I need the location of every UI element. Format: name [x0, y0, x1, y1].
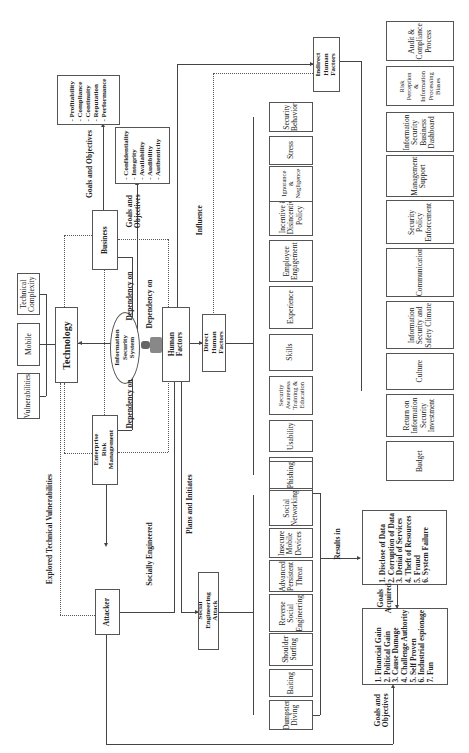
dotted-erm-hf-v	[168, 383, 169, 452]
dotted-tech-business-h	[64, 235, 92, 236]
label-goals-objectives-3: Goals and Objectives	[374, 690, 391, 730]
label-plans: Plans and Initiates	[186, 464, 194, 544]
edge-attacker-goals-h	[106, 744, 393, 745]
edge-socially-v	[174, 382, 175, 612]
label-explored: Explored Technical Vulnerabilities	[46, 464, 54, 594]
tech-factor-label: Technical Complexity	[20, 276, 37, 311]
results-tick	[313, 715, 320, 716]
results-box: 1. Disclose of Data 2. Corruption of Dat…	[362, 510, 447, 585]
business-label: Business	[101, 226, 109, 254]
edge-hf-indirect-h	[177, 64, 313, 65]
factor-label: Budget	[416, 450, 424, 472]
security-goals-box: - Confidentiality - Integrity - Availabi…	[115, 127, 170, 184]
factor-label: Usability	[287, 422, 295, 450]
bracket-tick	[40, 344, 55, 345]
attack-mobile: Insecure Mobile Devices	[269, 528, 313, 558]
attacker-label: Attacker	[103, 598, 111, 626]
business-goals-box: - Profitability - Compliance - Continuit…	[57, 75, 120, 125]
attack-social: Social Networking	[269, 490, 313, 526]
attack-shoulder: Shoulder Surfing	[269, 633, 313, 666]
indirect-factor-management: Management Support	[386, 155, 454, 197]
direct-factor-training: Security Awareness Training & Education	[269, 376, 313, 415]
edge-hf-indirect	[177, 64, 178, 308]
social-engineering-attack-node: Social Engineering Attack	[198, 572, 219, 650]
factor-label: Stress	[287, 142, 295, 160]
arrow-down-icon	[104, 543, 108, 547]
factor-label: Ignorance & Negligence	[280, 169, 301, 199]
results-trunk-v	[320, 493, 321, 715]
attacker-goals-text: 1. Financial Gain 2. Political Gain 3. C…	[375, 610, 435, 683]
factor-label: Return on Information Security Investmen…	[403, 398, 436, 434]
dotted-business-hf	[118, 239, 168, 240]
direct-trunk-h	[226, 343, 254, 344]
bracket-tick	[40, 294, 46, 295]
direct-hf-label: Direct Human Factors	[202, 332, 225, 355]
direct-trunk-v	[253, 117, 254, 475]
edge-attacker-goals-v2	[393, 686, 394, 744]
indirect-hf-label: Indirect Human Factors	[315, 52, 338, 77]
dotted-explored	[60, 383, 61, 615]
dotted-tech-erm-h	[64, 453, 92, 454]
indirect-factor-climate: Information Security and Safety Climate	[386, 301, 454, 349]
label-goals-objectives-1: Goals and Objectives	[86, 124, 94, 204]
arrow-right-icon	[357, 556, 361, 560]
factor-label: Audit & Compliance Process	[408, 23, 433, 59]
technology-node: Technology	[55, 307, 78, 383]
iss-label: Information Security System	[113, 330, 136, 367]
tech-factor-vulnerabilities: Vulnerabilities	[17, 373, 40, 419]
factor-label: Communication	[416, 248, 424, 296]
attack-label: Shoulder Surfing	[283, 636, 300, 663]
label-dependency-3: Dependency on	[126, 374, 134, 434]
label-dependency-2: Dependency on	[146, 274, 154, 334]
attack-baiting: Baiting	[269, 669, 313, 697]
person-icon	[140, 335, 164, 355]
label-goals-acquired: Goals Acquired	[377, 583, 394, 613]
results-text: 1. Disclose of Data 2. Corruption of Dat…	[379, 513, 431, 583]
dotted-erm-hf	[118, 452, 168, 453]
attack-label: Insecure Mobile Devices	[279, 530, 304, 555]
indirect-factor-culture: Culture	[386, 353, 454, 390]
label-influence: Influence	[196, 200, 204, 240]
bracket-tick	[40, 396, 46, 397]
sea-trunk-h	[219, 612, 254, 613]
erm-label: Enterprise Risk Management	[93, 430, 116, 469]
attack-apt: Advanced Persistent Threat	[269, 560, 313, 592]
factor-label: Information Security and Safety Climate	[408, 303, 433, 348]
tech-factor-mobile: Mobile	[17, 323, 40, 366]
technology-label: Technology	[61, 321, 72, 370]
attack-label: Reverse Social Engineering	[279, 595, 304, 632]
attacker-node: Attacker	[95, 589, 120, 635]
human-factors-label: Human Factors	[168, 332, 185, 358]
factor-label: Information Security Business Dashboard	[403, 114, 436, 150]
label-dependency-1: Dependency on	[126, 266, 134, 326]
indirect-factor-communication: Communication	[386, 248, 454, 297]
label-goals-objectives-2: Goals and Objectives	[126, 191, 143, 231]
factor-label: Risk Perception & Information Processing…	[399, 70, 442, 101]
attack-reverse: Reverse Social Engineering	[269, 594, 313, 632]
edge-iss-tech	[78, 343, 112, 344]
attack-trunk-v	[253, 495, 254, 715]
indirect-trunk-v	[361, 61, 362, 391]
sea-label: Social Engineering Attack	[198, 593, 219, 630]
erm-node: Enterprise Risk Management	[92, 415, 118, 485]
attack-label: Advanced Persistent Threat	[279, 561, 304, 591]
tech-factors-bracket	[46, 294, 47, 396]
business-goals-text: - Profitability - Compliance - Continuit…	[68, 79, 108, 122]
factor-label: Security Behavior	[283, 103, 300, 131]
dotted-influence-h	[213, 73, 313, 74]
attack-label: Dumpster Diving	[283, 700, 300, 730]
direct-factor-stress: Stress	[269, 136, 313, 165]
dotted-business-hf-v	[168, 239, 169, 307]
direct-factor-usability: Usability	[269, 420, 313, 452]
edge-erm-attacker	[106, 485, 107, 545]
attack-label: Baiting	[287, 672, 295, 694]
label-socially: Socially Engineered	[146, 514, 154, 594]
indirect-factor-roi: Return on Information Security Investmen…	[386, 394, 454, 437]
results-tick	[313, 493, 320, 494]
direct-factor-ignorance: Ignorance & Negligence	[269, 166, 313, 202]
business-node: Business	[92, 210, 118, 270]
label-results-in: Results in	[334, 524, 342, 564]
direct-factor-skills: Skills	[269, 334, 313, 371]
edge-business-goals	[103, 125, 104, 210]
direct-human-factors-node: Direct Human Factors	[202, 314, 226, 372]
